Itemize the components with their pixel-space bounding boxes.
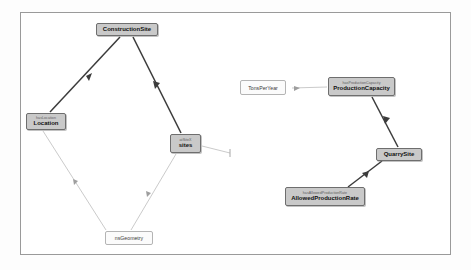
node-class-label: ProductionCapacity: [333, 85, 390, 92]
node-class-label: sites: [179, 142, 193, 149]
node-property-label: hasAllowedProductionRate: [303, 191, 347, 195]
node-location[interactable]: hasLocation Location: [26, 113, 66, 130]
edge-layer: [0, 0, 471, 270]
edge-constructionsite-location: [50, 37, 120, 112]
node-allowedproductionrate[interactable]: hasAllowedProductionRate AllowedProducti…: [285, 187, 365, 206]
thin-edges: [43, 87, 327, 230]
arrowhead-icon: [383, 116, 390, 124]
diagram-stage: ConstructionSite hasLocation Location at…: [0, 0, 471, 270]
arrowhead-icon: [86, 73, 92, 81]
node-nsgeometry[interactable]: nsGeometry: [105, 231, 153, 245]
node-class-label: AllowedProductionRate: [291, 195, 359, 202]
edge-sitex-stub: [202, 146, 230, 153]
node-constructionsite[interactable]: ConstructionSite: [96, 23, 158, 36]
arrowhead-icon: [294, 86, 300, 91]
node-property-label: hasLocation: [36, 116, 56, 120]
node-tonsperyear[interactable]: TonsPerYear: [240, 80, 286, 95]
node-class-label: TonsPerYear: [248, 85, 278, 91]
node-class-label: QuarrySite: [384, 151, 415, 158]
node-property-label: atSiteX: [180, 138, 192, 142]
node-class-label: Location: [34, 120, 59, 127]
edge-sitex-nsgeometry: [131, 154, 176, 230]
node-class-label: nsGeometry: [115, 235, 143, 241]
thick-edges: [50, 37, 398, 187]
node-class-label: ConstructionSite: [103, 26, 151, 33]
arrowhead-icon: [146, 191, 151, 197]
node-sites[interactable]: atSiteX sites: [170, 134, 201, 153]
arrowhead-icon: [362, 171, 369, 178]
node-quarrysite[interactable]: QuarrySite: [376, 148, 422, 161]
node-productioncapacity[interactable]: hasProductionCapacity ProductionCapacity: [328, 77, 395, 96]
node-property-label: hasProductionCapacity: [342, 81, 380, 85]
